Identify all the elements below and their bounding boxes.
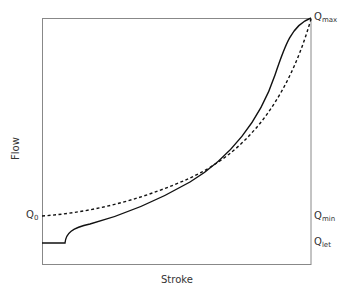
y-axis-label: Flow (10, 137, 21, 160)
qmin-label: Qmin (314, 211, 335, 223)
solid-curve (42, 18, 311, 243)
q0-label: Q0 (26, 210, 38, 222)
dashed-curve (42, 19, 311, 216)
x-axis-label: Stroke (161, 275, 193, 285)
chart-canvas (0, 0, 358, 292)
qmax-label: Qmax (314, 12, 337, 24)
plot-frame (43, 19, 312, 265)
qlet-label: Qlet (314, 237, 331, 249)
